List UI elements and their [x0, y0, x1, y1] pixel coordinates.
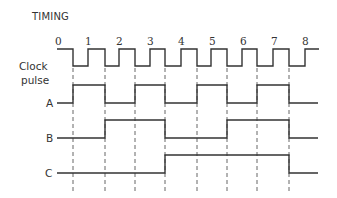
signal-b-waveform — [57, 120, 318, 138]
signal-a-waveform — [57, 85, 318, 103]
clock-waveform — [57, 49, 319, 66]
timing-diagram — [0, 0, 337, 198]
signal-c-waveform — [57, 155, 318, 173]
